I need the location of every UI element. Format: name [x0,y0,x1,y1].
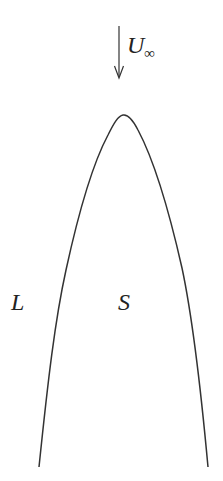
region-label-S: S [118,289,130,315]
diagram-canvas: U∞ L S [0,0,223,481]
freestream-label: U∞ [127,32,155,61]
region-label-L: L [10,289,24,315]
freestream-arrow [115,26,124,78]
